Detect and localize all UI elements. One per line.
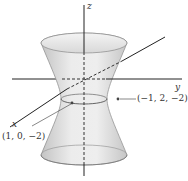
point-marker-neg1-2-neg2 [117, 98, 120, 101]
z-axis-label: z [87, 2, 92, 11]
hyperboloid-drawing [0, 0, 188, 181]
y-axis-label: y [175, 83, 180, 92]
point-label-1-0-neg2: (1, 0, −2) [2, 132, 45, 141]
x-axis-label: x [12, 120, 17, 129]
hyperboloid-figure: z y x (1, 0, −2) (−1, 2, −2) [0, 0, 188, 181]
point-marker-1-0-neg2 [71, 102, 74, 105]
point-label-neg1-2-neg2: (−1, 2, −2) [137, 94, 188, 103]
x-axis-back [122, 37, 165, 61]
